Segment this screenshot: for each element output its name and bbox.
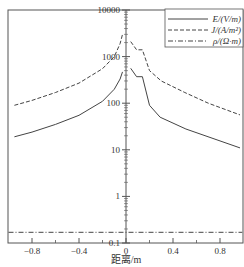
legend-label: ρ/(Ω·m) (212, 36, 241, 46)
x-tick-label: 0.8 (214, 246, 226, 256)
x-tick-label: −0.4 (71, 246, 88, 256)
y-axis: 0.1110100100010000 (98, 5, 131, 248)
series-line-dashed (131, 42, 240, 115)
y-tick-label: 10000 (98, 5, 121, 15)
y-tick-label: 100 (107, 98, 121, 108)
x-tick-label: 0.4 (167, 246, 179, 256)
y-tick-label: 0.1 (109, 238, 120, 248)
legend-label: J/(A/m²) (211, 25, 241, 35)
x-tick-label: −0.8 (24, 246, 41, 256)
x-axis-title: 距离/m (111, 253, 142, 265)
y-tick-label: 10 (111, 145, 121, 155)
y-tick-label: 1 (116, 191, 121, 201)
legend-label: E/(V/m) (212, 14, 242, 24)
chart: 0.1110100100010000 −0.8−0.400.40.8 E/(V/… (0, 0, 244, 267)
legend: E/(V/m)J/(A/m²)ρ/(Ω·m) (165, 9, 243, 47)
series-line-dashed (14, 34, 122, 105)
series-line-solid (131, 68, 240, 148)
